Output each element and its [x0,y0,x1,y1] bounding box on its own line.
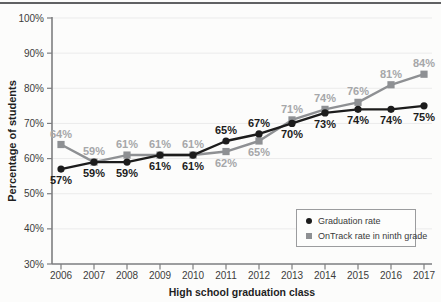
data-label-ontrack: 61% [149,138,171,150]
legend-item-ontrack-rate: OnTrack rate in ninth grade [306,231,409,241]
data-label-graduation: 67% [248,117,270,129]
y-tick-label: 80% [24,83,44,94]
x-tick-label: 2006 [50,270,73,281]
data-label-graduation: 57% [50,174,72,186]
legend-label-ontrack-rate: OnTrack rate in ninth grade [318,231,427,241]
data-point-marker-circle [156,151,163,158]
x-tick-label: 2015 [347,270,370,281]
x-tick-label: 2011 [215,270,237,281]
x-axis-title: High school graduation class [52,286,432,298]
data-label-graduation: 59% [83,167,105,179]
data-label-ontrack: 71% [281,103,303,115]
data-point-marker-circle [288,120,295,127]
data-label-ontrack: 65% [248,146,270,158]
data-label-graduation: 61% [182,160,204,172]
y-tick-label: 50% [24,188,44,199]
data-label-graduation: 75% [413,111,435,123]
data-point-marker-circle [321,109,328,116]
data-point-marker-circle [255,130,262,137]
x-tick-label: 2013 [281,270,304,281]
data-point-marker-square [354,99,361,106]
data-label-graduation: 73% [314,118,336,130]
data-label-ontrack: 64% [50,128,72,140]
data-point-marker-circle [222,137,229,144]
x-tick-label: 2008 [116,270,139,281]
data-label-ontrack: 62% [215,157,237,169]
y-axis-title: Percentage of students [6,41,20,241]
legend-item-graduation-rate: Graduation rate [306,216,409,226]
data-point-marker-circle [90,158,97,165]
circle-marker-icon [306,218,312,224]
x-tick-label: 2014 [314,270,337,281]
data-label-ontrack: 76% [347,85,369,97]
y-tick-label: 100% [18,13,44,24]
line-chart-figure: 30%40%50%60%70%80%90%100%200620072008200… [0,0,441,302]
x-tick-label: 2010 [182,270,205,281]
data-label-ontrack: 84% [413,57,435,69]
y-tick-label: 30% [24,259,44,270]
legend-label-graduation-rate: Graduation rate [318,216,381,226]
data-label-graduation: 61% [149,160,171,172]
data-point-marker-square [123,151,130,158]
data-label-ontrack: 74% [314,92,336,104]
data-label-graduation: 59% [116,167,138,179]
chart-legend: Graduation rate OnTrack rate in ninth gr… [296,209,416,247]
data-point-marker-circle [57,166,64,173]
data-point-marker-circle [189,151,196,158]
data-label-ontrack: 61% [182,138,204,150]
y-tick-label: 60% [24,153,44,164]
figure-page: 30%40%50%60%70%80%90%100%200620072008200… [0,0,441,302]
y-tick-label: 70% [24,118,44,129]
data-point-marker-square [222,148,229,155]
data-point-marker-circle [354,106,361,113]
x-tick-label: 2009 [149,270,172,281]
chart-canvas: 30%40%50%60%70%80%90%100%200620072008200… [0,0,441,302]
data-point-marker-square [255,137,262,144]
data-point-marker-square [387,81,394,88]
x-tick-label: 2007 [83,270,106,281]
data-label-ontrack: 81% [380,68,402,80]
x-tick-label: 2016 [380,270,403,281]
y-tick-label: 40% [24,223,44,234]
data-label-graduation: 65% [215,124,237,136]
data-label-graduation: 74% [347,114,369,126]
data-point-marker-circle [387,106,394,113]
data-point-marker-circle [420,102,427,109]
data-label-ontrack: 61% [116,138,138,150]
square-marker-icon [306,233,312,239]
data-point-marker-square [420,71,427,78]
y-tick-label: 90% [24,48,44,59]
data-point-marker-circle [123,158,130,165]
x-tick-label: 2012 [248,270,271,281]
data-point-marker-square [57,141,64,148]
x-tick-label: 2017 [413,270,436,281]
data-label-graduation: 70% [281,128,303,140]
data-label-graduation: 74% [380,114,402,126]
data-label-ontrack: 59% [83,145,105,157]
